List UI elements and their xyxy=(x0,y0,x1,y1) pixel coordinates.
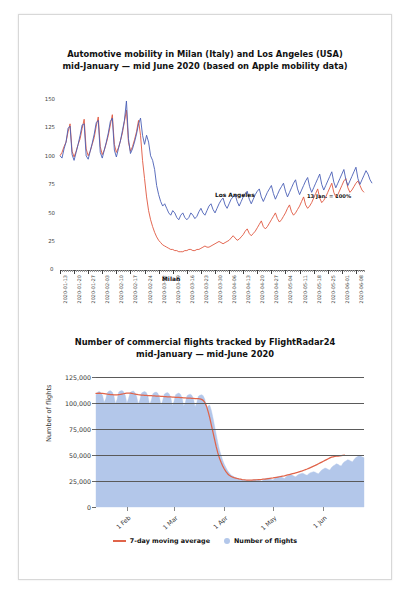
figure1-x-minor-tick xyxy=(362,270,363,272)
figure1-x-minor-tick xyxy=(153,270,154,272)
figure1-label-milan: Milan xyxy=(162,276,180,282)
figure1-x-tick-label: 2020-02-24 xyxy=(147,275,153,303)
figure1-y-tick-label: 50 xyxy=(19,210,55,216)
figure1-x-minor-tick xyxy=(118,270,119,272)
figure1-x-minor-tick xyxy=(259,270,260,272)
figure1-x-tick-label: 2020-02-10 xyxy=(118,275,124,303)
figure1-x-major-tick xyxy=(145,270,146,274)
figure1-x-minor-tick xyxy=(149,270,150,272)
figure1-x-minor-tick xyxy=(72,270,73,272)
figure1-x-major-tick xyxy=(88,270,89,274)
figure1-y-tick-label: 125 xyxy=(19,124,55,130)
figure1-x-tick-label: 2020-06-08 xyxy=(358,275,364,303)
figure1-label-los-angeles: Los Angeles xyxy=(215,192,255,198)
figure1-x-major-tick xyxy=(159,270,160,274)
figure2-y-tick xyxy=(92,481,96,482)
figure1-x-minor-tick xyxy=(137,270,138,272)
figure1-x-minor-tick xyxy=(348,270,349,272)
figure1-x-major-tick xyxy=(257,270,258,274)
figure1-x-minor-tick xyxy=(132,270,133,272)
figure1-x-major-tick xyxy=(314,270,315,274)
figure1-x-minor-tick xyxy=(223,270,224,272)
figure1-x-minor-tick xyxy=(312,270,313,272)
figure1-x-major-tick xyxy=(130,270,131,274)
figure1-x-minor-tick xyxy=(141,270,142,272)
figure2-title: Number of commercial flights tracked by … xyxy=(19,337,391,360)
figure1-x-tick-label: 2020-05-18 xyxy=(316,275,322,303)
figure1-x-minor-tick xyxy=(80,270,81,272)
figure1-x-minor-tick xyxy=(233,270,234,272)
figure1-x-minor-tick xyxy=(128,270,129,272)
figure1-x-minor-tick xyxy=(139,270,140,272)
figure1-x-minor-tick xyxy=(269,270,270,272)
figure1-x-tick-label: 2020-04-20 xyxy=(259,275,265,303)
figure2-x-tick-label: 1 Apr xyxy=(212,514,229,530)
figure1-x-minor-tick xyxy=(273,270,274,272)
figure1-x-major-tick xyxy=(60,270,61,274)
figure1-x-tick-label: 2020-06-01 xyxy=(344,275,350,303)
figure2-y-tick xyxy=(92,403,96,404)
figure1-x-minor-tick xyxy=(98,270,99,272)
figure1-x-minor-tick xyxy=(161,270,162,272)
figure1-x-minor-tick xyxy=(155,270,156,272)
figure1-x-minor-tick xyxy=(96,270,97,272)
figure2-gridline xyxy=(96,403,364,404)
figure1-x-minor-tick xyxy=(110,270,111,272)
figure1-x-minor-tick xyxy=(330,270,331,272)
figure1-x-minor-tick xyxy=(185,270,186,272)
figure1-x-minor-tick xyxy=(175,270,176,272)
figure1-x-minor-tick xyxy=(302,270,303,272)
figure2-gridline xyxy=(96,429,364,430)
figure1-x-major-tick xyxy=(229,270,230,274)
figure2-x-tick xyxy=(127,507,128,511)
figure1-x-minor-tick xyxy=(167,270,168,272)
figure1-x-minor-tick xyxy=(245,270,246,272)
figure1-x-minor-tick xyxy=(310,270,311,272)
figure1-x-minor-tick xyxy=(296,270,297,272)
figure2-y-tick-label: 0 xyxy=(53,504,91,511)
legend-marker-moving-average xyxy=(113,540,126,542)
figure1-x-minor-tick xyxy=(261,270,262,272)
figure1-x-major-tick xyxy=(173,270,174,274)
figure1-x-minor-tick xyxy=(169,270,170,272)
figure1-x-minor-tick xyxy=(104,270,105,272)
figure1-x-minor-tick xyxy=(227,270,228,272)
figure1-x-minor-tick xyxy=(86,270,87,272)
figure1-x-major-tick xyxy=(116,270,117,274)
figure2-area-and-line xyxy=(96,377,364,507)
figure1-x-minor-tick xyxy=(68,270,69,272)
figure1-x-minor-tick xyxy=(324,270,325,272)
figure1-x-minor-tick xyxy=(70,270,71,272)
figure1-x-minor-tick xyxy=(108,270,109,272)
figure1-annotation: 13 Jan. = 100% xyxy=(307,193,351,199)
figure1-x-minor-tick xyxy=(78,270,79,272)
figure1-x-minor-tick xyxy=(151,270,152,272)
figure1-x-minor-tick xyxy=(294,270,295,272)
figure1-x-minor-tick xyxy=(253,270,254,272)
figure1-y-tick-label: 150 xyxy=(19,96,55,102)
figure1-x-major-tick xyxy=(300,270,301,274)
figure1-x-minor-tick xyxy=(183,270,184,272)
figure2-x-tick-label: 1 Feb xyxy=(115,514,132,530)
figure1-x-minor-tick xyxy=(346,270,347,272)
figure2-y-tick xyxy=(92,507,96,508)
figure1-x-minor-tick xyxy=(171,270,172,272)
figure1-x-minor-tick xyxy=(177,270,178,272)
figure1-x-minor-tick xyxy=(209,270,210,272)
figure1-x-minor-tick xyxy=(82,270,83,272)
figure1-x-tick-label: 2020-04-27 xyxy=(273,275,279,303)
figure1-x-minor-tick xyxy=(364,270,365,272)
figure1-x-minor-tick xyxy=(338,270,339,272)
figure1-lines xyxy=(60,93,364,270)
figure1-x-minor-tick xyxy=(298,270,299,272)
figure1-x-minor-tick xyxy=(306,270,307,272)
figure1-x-minor-tick xyxy=(320,270,321,272)
figure1-x-minor-tick xyxy=(122,270,123,272)
figure1-x-minor-tick xyxy=(66,270,67,272)
figure1-title: Automotive mobility in Milan (Italy) and… xyxy=(19,49,391,72)
figure1-title-line2: mid-January — mid June 2020 (based on Ap… xyxy=(19,61,391,73)
figure1-x-minor-tick xyxy=(94,270,95,272)
figure1-x-minor-tick xyxy=(195,270,196,272)
figure1-x-minor-tick xyxy=(221,270,222,272)
figure1-x-minor-tick xyxy=(318,270,319,272)
